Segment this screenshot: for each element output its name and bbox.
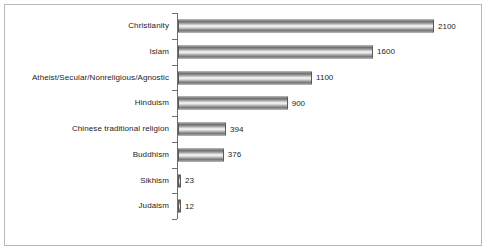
- bar-value-label: 376: [228, 150, 241, 160]
- bar-category-label: Islam: [149, 47, 169, 57]
- bar-row: Hinduism900: [5, 90, 481, 116]
- bar-category-label: Hinduism: [135, 98, 169, 108]
- axis-tick: [172, 116, 177, 117]
- axis-tick: [172, 65, 177, 66]
- bar-wrapper: 23: [178, 174, 194, 187]
- bar-row: Christianity2100: [5, 13, 481, 39]
- bar-value-label: 1600: [377, 47, 395, 57]
- axis-tick: [172, 193, 177, 194]
- bar: [178, 148, 224, 161]
- bar-row: Atheist/Secular/Nonreligious/Agnostic110…: [5, 65, 481, 91]
- bar: [178, 97, 288, 110]
- axis-tick: [172, 142, 177, 143]
- bar-category-label: Chinese traditional religion: [72, 124, 169, 134]
- bar-row: Judaism12: [5, 193, 481, 219]
- bar: [178, 45, 373, 58]
- bar: [178, 200, 181, 213]
- bar-value-label: 23: [185, 176, 194, 186]
- bar: [178, 20, 434, 33]
- bar-value-label: 394: [230, 124, 243, 134]
- chart-frame: Christianity2100Islam1600Atheist/Secular…: [4, 4, 482, 246]
- axis-tick: [172, 90, 177, 91]
- axis-tick: [172, 39, 177, 40]
- bar-category-label: Christianity: [128, 21, 169, 31]
- bar-category-label: Sikhism: [140, 176, 169, 186]
- bar-wrapper: 900: [178, 97, 305, 110]
- plot-area: Christianity2100Islam1600Atheist/Secular…: [5, 5, 481, 245]
- bar-value-label: 1100: [316, 73, 333, 83]
- bar: [178, 174, 181, 187]
- bar-wrapper: 1100: [178, 71, 333, 84]
- bar: [178, 123, 226, 136]
- bar-wrapper: 2100: [178, 20, 456, 33]
- axis-tick: [172, 168, 177, 169]
- bar: [178, 71, 312, 84]
- bar-wrapper: 1600: [178, 45, 395, 58]
- bar-category-label: Atheist/Secular/Nonreligious/Agnostic: [32, 73, 169, 83]
- bar-wrapper: 376: [178, 148, 241, 161]
- bar-wrapper: 394: [178, 123, 243, 136]
- bar-category-label: Buddhism: [133, 150, 169, 160]
- axis-tick: [172, 13, 177, 14]
- bar-row: Chinese traditional religion394: [5, 116, 481, 142]
- bar-wrapper: 12: [178, 200, 194, 213]
- bar-row: Islam1600: [5, 39, 481, 65]
- axis-tick: [172, 219, 177, 220]
- bar-row: Buddhism376: [5, 142, 481, 168]
- bar-value-label: 900: [292, 98, 305, 108]
- bar-value-label: 2100: [438, 21, 456, 31]
- bar-category-label: Judaism: [139, 201, 170, 211]
- bar-row: Sikhism23: [5, 168, 481, 194]
- bar-value-label: 12: [185, 201, 194, 211]
